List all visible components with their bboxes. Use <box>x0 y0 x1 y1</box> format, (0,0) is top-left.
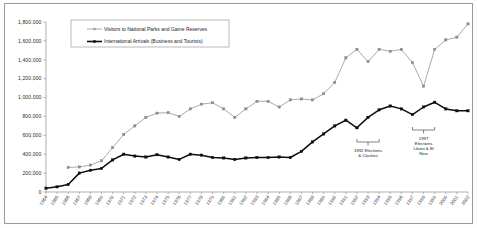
data-point <box>78 172 81 175</box>
data-point <box>434 48 436 50</box>
data-point <box>189 153 192 156</box>
data-point <box>367 116 370 119</box>
x-axis-label: 1970 <box>105 194 115 206</box>
x-axis-label: 1965 <box>50 194 60 206</box>
x-axis-label: 1994 <box>372 194 382 206</box>
data-point <box>311 141 314 144</box>
x-axis-label: 1979 <box>205 194 215 206</box>
data-point <box>300 98 302 100</box>
data-point <box>134 125 136 127</box>
data-point <box>223 108 225 110</box>
x-axis-label: 1966 <box>61 194 71 206</box>
y-axis-label: 0 <box>39 189 42 195</box>
data-point <box>122 153 125 156</box>
data-point <box>89 169 92 172</box>
data-point <box>145 116 147 118</box>
data-point <box>145 156 148 159</box>
data-point <box>389 105 392 108</box>
data-point <box>345 119 348 122</box>
annotation-text: Likoni & El <box>413 146 433 151</box>
x-axis-label: 1972 <box>127 194 137 206</box>
data-point <box>389 50 391 52</box>
data-point <box>367 61 369 63</box>
chart-frame: 1,800,0001,600,0001,400,0001,200,0001,00… <box>4 3 473 224</box>
data-point <box>211 156 214 159</box>
x-axis-label: 1976 <box>172 194 182 206</box>
x-axis-label: 1964 <box>38 194 48 206</box>
y-axis-label: 400,000 <box>22 151 41 157</box>
data-point <box>234 158 237 161</box>
chart-axes <box>46 22 468 192</box>
y-axis-label: 600,000 <box>22 132 41 138</box>
series-line-1 <box>46 102 468 188</box>
data-point <box>322 93 324 95</box>
y-axis-label: 1,200,000 <box>18 75 42 81</box>
data-point <box>134 155 137 158</box>
data-point <box>200 154 203 157</box>
x-axis-label: 2001 <box>449 194 459 206</box>
data-point <box>445 108 448 111</box>
data-point <box>178 115 180 117</box>
data-point <box>422 85 424 87</box>
data-point <box>334 81 336 83</box>
data-point <box>256 100 258 102</box>
data-point <box>56 186 59 189</box>
data-point <box>322 133 325 136</box>
data-point <box>411 113 414 116</box>
data-point <box>167 156 170 159</box>
data-point <box>178 158 181 161</box>
data-point <box>411 61 413 63</box>
data-point <box>345 57 347 59</box>
data-point <box>467 110 470 113</box>
data-point <box>378 109 381 112</box>
data-point <box>400 108 403 111</box>
data-point <box>422 106 425 109</box>
data-point <box>311 99 313 101</box>
x-axis-label: 1968 <box>83 194 93 206</box>
data-point <box>256 156 259 159</box>
x-axis-label: 1988 <box>305 194 315 206</box>
y-axis-label: 800,000 <box>22 113 41 119</box>
data-point <box>67 183 70 186</box>
data-point <box>78 166 80 168</box>
x-axis-label: 1974 <box>150 194 160 206</box>
data-point <box>267 156 270 159</box>
data-point <box>100 160 102 162</box>
x-axis-label: 1991 <box>338 194 348 206</box>
data-point <box>378 48 380 50</box>
x-axis-label: 1987 <box>294 194 304 206</box>
x-axis-label: 1996 <box>394 194 404 206</box>
data-point <box>356 48 358 50</box>
y-axis-label: 1,000,000 <box>18 94 42 100</box>
x-axis-label: 1986 <box>283 194 293 206</box>
x-axis-label: 1995 <box>383 194 393 206</box>
legend-label-0: Visitors to National Parks and Game Rese… <box>104 26 208 32</box>
data-point <box>356 127 359 129</box>
line-chart: 1,800,0001,600,0001,400,0001,200,0001,00… <box>5 4 474 225</box>
x-axis-label: 1997 <box>405 194 415 206</box>
annotation-text: 1992 Elections <box>354 148 382 153</box>
x-axis-label: 1981 <box>227 194 237 206</box>
x-axis-label: 1982 <box>238 194 248 206</box>
x-axis-label: 1985 <box>272 194 282 206</box>
x-axis-label: 1998 <box>416 194 426 206</box>
data-point <box>100 167 103 170</box>
legend-swatch-marker-1 <box>93 40 96 43</box>
x-axis-label: 1990 <box>327 194 337 206</box>
x-axis-label: 1980 <box>216 194 226 206</box>
data-point <box>222 157 225 160</box>
data-point <box>245 108 247 110</box>
data-point <box>300 150 303 153</box>
data-point <box>456 36 458 38</box>
data-point <box>211 102 213 104</box>
data-point <box>445 39 447 41</box>
x-axis-label: 1967 <box>72 194 82 206</box>
x-axis-label: 2002 <box>460 194 470 206</box>
data-point <box>267 100 269 102</box>
x-axis-label: 1989 <box>316 194 326 206</box>
x-axis-label: 1973 <box>138 194 148 206</box>
data-point <box>400 48 402 50</box>
data-point <box>433 101 436 104</box>
legend-label-1: International Arrivals (Business and Tou… <box>104 38 203 44</box>
data-point <box>289 156 292 159</box>
